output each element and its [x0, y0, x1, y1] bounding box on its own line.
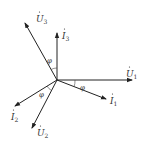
label-U1: U1 — [126, 66, 137, 80]
phasor-diagram: U1 I1 I3 U3 I2 U2 φ φ φ — [0, 0, 145, 147]
angle-arc-U3-I3 — [51, 68, 57, 70]
svg-text:I1: I1 — [109, 96, 117, 107]
svg-text:U1: U1 — [126, 69, 137, 80]
angle-label-phi-top: φ — [47, 57, 52, 65]
angle-arc-U1-I1 — [74, 80, 75, 87]
label-U3: U3 — [36, 11, 48, 25]
angle-label-phi-bottom: φ — [39, 91, 44, 99]
svg-text:U2: U2 — [37, 128, 49, 139]
svg-text:I2: I2 — [10, 112, 19, 123]
label-I3: I3 — [61, 28, 70, 42]
svg-text:U3: U3 — [36, 14, 48, 25]
angle-arc-I2-U2 — [47, 86, 52, 91]
label-I2: I2 — [10, 109, 19, 123]
svg-text:I3: I3 — [61, 31, 70, 42]
label-I1: I1 — [109, 93, 117, 107]
angle-label-phi-right: φ — [80, 84, 85, 92]
phasor-U3 — [25, 23, 57, 80]
label-U2: U2 — [37, 125, 49, 139]
